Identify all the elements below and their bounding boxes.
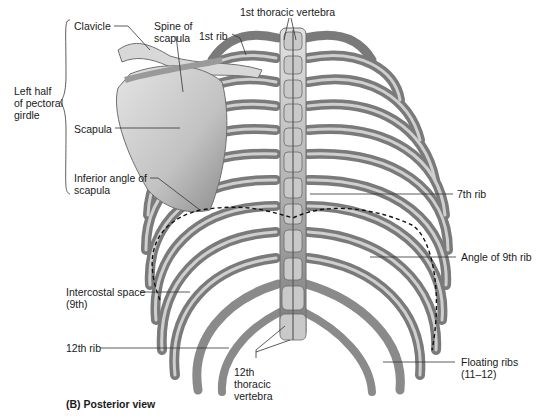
label-left-half-pectoral-girdle: Left half of pectoral girdle — [14, 85, 63, 121]
label-12th-thoracic-vertebra: 12th thoracic vertebra — [234, 366, 273, 402]
label-1st-rib: 1st rib — [199, 30, 228, 42]
label-clavicle: Clavicle — [74, 20, 111, 32]
label-inferior-angle-of-scapula: Inferior angle of scapula — [74, 172, 147, 196]
label-1st-thoracic-vertebra: 1st thoracic vertebra — [240, 6, 335, 18]
label-scapula: Scapula — [74, 123, 112, 135]
thoracic-cage-illustration — [0, 0, 558, 417]
vertebral-column — [280, 28, 306, 340]
label-angle-of-9th-rib: Angle of 9th rib — [461, 251, 532, 263]
label-intercostal-space: Intercostal space (9th) — [66, 286, 145, 310]
label-12th-rib: 12th rib — [66, 342, 101, 354]
label-spine-of-scapula: Spine of scapula — [154, 20, 193, 44]
label-floating-ribs: Floating ribs (11–12) — [461, 356, 518, 380]
ribs-right — [304, 35, 448, 392]
label-7th-rib: 7th rib — [457, 188, 486, 200]
figure-caption: (B) Posterior view — [66, 398, 155, 410]
